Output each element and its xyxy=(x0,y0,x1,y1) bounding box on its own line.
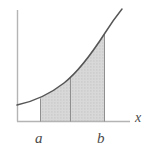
integral-area-figure: a b x xyxy=(0,0,151,150)
tick-label-b: b xyxy=(97,131,105,146)
figure-canvas xyxy=(0,0,151,150)
x-axis-label: x xyxy=(135,111,141,125)
shaded-area-fill xyxy=(17,9,122,121)
tick-label-a: a xyxy=(35,131,43,146)
shaded-area-region xyxy=(17,9,122,121)
